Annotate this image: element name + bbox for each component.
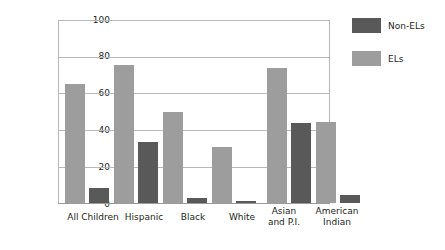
legend-label-els: ELs (388, 54, 403, 64)
legend-swatch-els (352, 51, 381, 66)
x-axis-baseline (58, 203, 330, 204)
bar-nonels-all-children (89, 188, 109, 203)
legend-label-non-els: Non-ELs (388, 21, 425, 31)
bar-els-white (212, 147, 232, 203)
bar-els-black (163, 112, 183, 204)
legend-swatch-non-els (352, 18, 381, 33)
bar-els-american-indian (316, 122, 336, 203)
plot-area (58, 20, 330, 204)
bar-nonels-american-indian (340, 195, 360, 203)
legend-item-non-els: Non-ELs (352, 18, 444, 33)
bar-nonels-hispanic (138, 142, 158, 203)
bar-group-hispanic (114, 20, 161, 203)
y-axis-line (58, 20, 59, 204)
bar-group-black (163, 20, 210, 203)
bar-els-all-children (65, 84, 85, 203)
legend-item-els: ELs (352, 51, 444, 66)
chart-page: Percentage 100 80 60 40 20 0 (0, 0, 445, 250)
bar-group-all-children (65, 20, 112, 203)
bar-group-american-indian (283, 20, 330, 203)
x-label-american-indian: American Indian (302, 206, 372, 228)
bar-group-asian-and-pi (234, 20, 281, 203)
bar-nonels-black (187, 198, 207, 203)
bar-els-hispanic (114, 65, 134, 203)
chart-legend: Non-ELs ELs (352, 18, 444, 84)
